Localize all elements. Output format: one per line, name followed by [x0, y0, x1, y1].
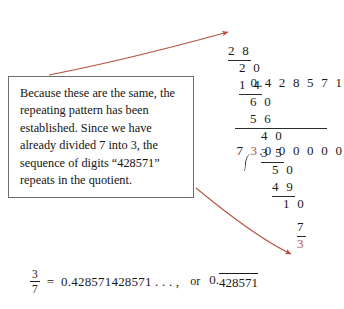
repeating-decimal-notation: 0. 428571	[209, 272, 258, 291]
quotient-value: 0.4 2 8 5 7 1	[251, 75, 344, 90]
fraction-denominator: 7	[30, 281, 40, 295]
arrow-to-dividend-three	[49, 32, 228, 75]
repeating-digits: 428571	[219, 273, 258, 291]
explanation-text: Because these are the same, the repeatin…	[20, 85, 186, 189]
decimal-expansion-value: 0.428571428571 . . . ,	[61, 274, 179, 290]
fraction-three-sevenths: 3 7	[30, 268, 40, 295]
equals-sign: =	[47, 274, 54, 290]
divisor-value: 7	[237, 142, 244, 159]
step-remainder-4: 5 0	[272, 161, 295, 178]
summary-equation: 3 7 = 0.428571428571 . . . , or 0. 42857…	[30, 268, 258, 295]
explanation-callout-box: Because these are the same, the repeatin…	[8, 76, 194, 198]
final-remainder: 3	[297, 235, 306, 252]
step-remainder-5: 1 0	[283, 195, 306, 212]
step-remainder-2: 6 0	[250, 93, 273, 110]
repeating-prefix: 0.	[209, 272, 219, 288]
step-remainder-1: 2 0	[239, 59, 262, 76]
fraction-numerator: 3	[30, 268, 40, 281]
or-label: or	[190, 274, 200, 289]
step-remainder-3: 4 0	[261, 127, 284, 144]
long-division-block: 0.4 2 8 5 7 1 73.0 0 0 0 0 0 2 8 2 0 1 4…	[214, 6, 344, 309]
